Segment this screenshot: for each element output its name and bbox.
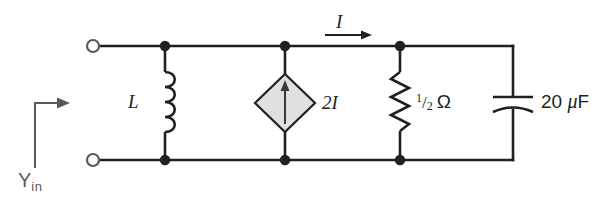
junction-dot [395,155,405,165]
circuit-schematic-canvas [0,0,605,205]
current-arrow-icon [325,31,372,40]
current-label: I [336,12,342,31]
top-input-terminal [87,40,99,52]
resistor-denominator: 2 [427,99,433,113]
capacitor-unit: F [577,91,589,112]
input-admittance-symbol: Y [18,169,31,191]
resistor-branch [391,46,409,160]
resistor-unit: Ω [437,91,451,112]
resistor-label: 1/2Ω [416,92,451,112]
resistor-zigzag-icon [391,72,409,131]
junction-dot [160,41,170,51]
input-admittance-label: Yin [18,170,42,193]
inductor-label: L [128,92,139,111]
input-admittance-subscript: in [31,179,42,194]
capacitor-mu-prefix: μ [567,90,577,112]
junction-dot [160,155,170,165]
circuit-diagram: L I 2I 1/2Ω 20 μF Yin [0,0,605,205]
capacitor-value: 20 [541,91,562,112]
input-admittance-arrow-icon [35,98,70,169]
bottom-input-terminal [87,154,99,166]
junction-dot [280,41,290,51]
inductor-branch [165,46,175,160]
admittance-arrow-head-icon [57,98,70,109]
inductor-coil-icon [165,72,175,132]
junction-dot [280,155,290,165]
current-arrow-head-icon [361,31,372,40]
dependent-source-label: 2I [322,93,338,112]
dependent-source-branch [255,46,315,160]
admittance-arrow-shaft-icon [35,103,60,168]
capacitor-label: 20 μF [541,91,589,111]
junction-dot [395,41,405,51]
